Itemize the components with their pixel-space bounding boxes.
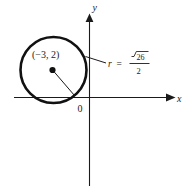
origin-label: 0 (78, 103, 83, 114)
radius-label-leader-line (86, 57, 107, 64)
y-axis-label: y (92, 2, 98, 13)
radius-segment (53, 71, 75, 96)
coordinate-plane-svg: (−3, 2) 0 x y r = 26 2 (0, 0, 186, 192)
x-axis-arrowhead (166, 94, 176, 102)
radicand-number: 26 (137, 53, 145, 62)
x-axis-label: x (176, 93, 182, 104)
radius-variable-label: r (108, 59, 112, 69)
denominator-number: 2 (137, 66, 141, 76)
center-coordinate-label: (−3, 2) (32, 49, 59, 61)
y-axis-arrowhead (86, 14, 94, 23)
radius-equals-sign: = (117, 59, 122, 69)
center-point-dot (49, 67, 55, 73)
radius-formula-group: r = 26 2 (108, 52, 150, 76)
circle-graph-figure: (−3, 2) 0 x y r = 26 2 (0, 0, 186, 192)
